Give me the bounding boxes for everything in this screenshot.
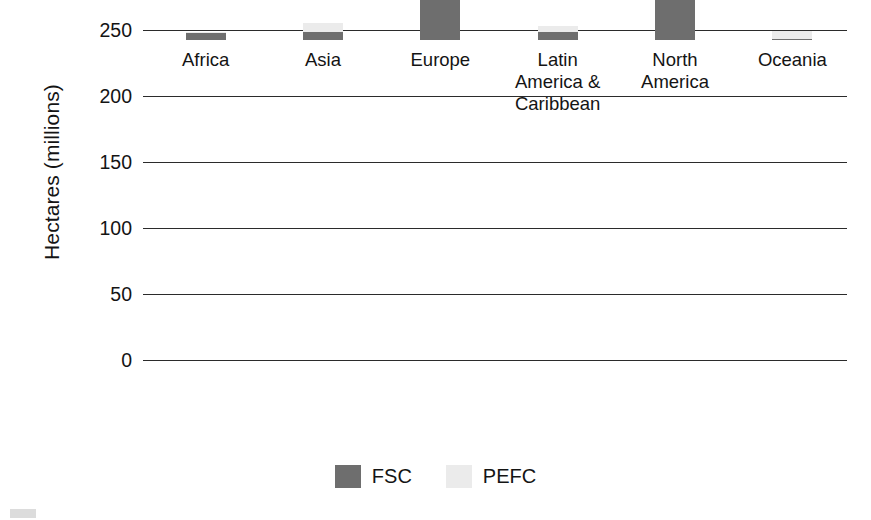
x-category-label-line: Latin xyxy=(515,49,600,71)
y-tick-label-150: 150 xyxy=(99,151,132,174)
bar-segment-fsc[interactable] xyxy=(420,0,460,40)
y-tick-label-100: 100 xyxy=(99,217,132,240)
gridline-200 xyxy=(143,96,847,97)
x-category-label: Africa xyxy=(182,49,229,71)
bar-segment-fsc[interactable] xyxy=(186,33,226,40)
x-category-label-line: North xyxy=(641,49,709,71)
chart-legend: FSCPEFC xyxy=(0,465,871,488)
bar-group[interactable]: LatinAmerica &Caribbean xyxy=(538,25,578,40)
gridline-50 xyxy=(143,294,847,295)
bar-segment-fsc[interactable] xyxy=(538,32,578,40)
bar-segment-pefc[interactable] xyxy=(772,31,812,39)
gridline-0 xyxy=(143,360,847,361)
bar-group[interactable]: NorthAmerica xyxy=(655,0,695,40)
legend-item-fsc[interactable]: FSC xyxy=(335,465,412,488)
x-category-label: LatinAmerica &Caribbean xyxy=(515,49,600,115)
x-category-label-line: Caribbean xyxy=(515,93,600,115)
x-category-label: Oceania xyxy=(758,49,827,71)
y-tick-label-0: 0 xyxy=(121,349,132,372)
bar-segment-pefc[interactable] xyxy=(303,23,343,32)
x-category-label: NorthAmerica xyxy=(641,49,709,93)
legend-swatch-pefc-icon xyxy=(446,465,472,488)
x-category-label: Europe xyxy=(411,49,471,71)
x-category-label-line: America & xyxy=(515,71,600,93)
bar-segment-pefc[interactable] xyxy=(186,32,226,33)
bar-group[interactable]: Europe xyxy=(420,0,460,40)
legend-swatch-fsc-icon xyxy=(335,465,361,488)
y-axis-title: Hectares (millions) xyxy=(40,12,64,332)
page-artifact-mark xyxy=(10,509,36,518)
bar-segment-fsc[interactable] xyxy=(303,32,343,40)
legend-label: PEFC xyxy=(483,465,536,488)
x-category-label-line: Asia xyxy=(305,49,341,71)
x-category-label: Asia xyxy=(305,49,341,71)
chart-figure: Hectares (millions) 250200150100500 Afri… xyxy=(0,0,871,520)
gridline-100 xyxy=(143,228,847,229)
x-category-label-line: Africa xyxy=(182,49,229,71)
bar-group[interactable]: Oceania xyxy=(772,31,812,40)
legend-label: FSC xyxy=(372,465,412,488)
y-tick-label-250: 250 xyxy=(99,19,132,42)
x-category-label-line: America xyxy=(641,71,709,93)
bar-group[interactable]: Asia xyxy=(303,23,343,40)
bar-segment-fsc[interactable] xyxy=(772,39,812,40)
x-category-label-line: Oceania xyxy=(758,49,827,71)
bar-segment-fsc[interactable] xyxy=(655,0,695,40)
x-category-label-line: Europe xyxy=(411,49,471,71)
gridline-150 xyxy=(143,162,847,163)
y-tick-label-50: 50 xyxy=(110,283,132,306)
plot-area: 250200150100500 AfricaAsiaEuropeLatinAme… xyxy=(143,30,847,370)
gridline-250 xyxy=(143,30,847,31)
bar-group[interactable]: Africa xyxy=(186,32,226,40)
bar-segment-pefc[interactable] xyxy=(538,26,578,33)
y-tick-label-200: 200 xyxy=(99,85,132,108)
legend-item-pefc[interactable]: PEFC xyxy=(446,465,536,488)
